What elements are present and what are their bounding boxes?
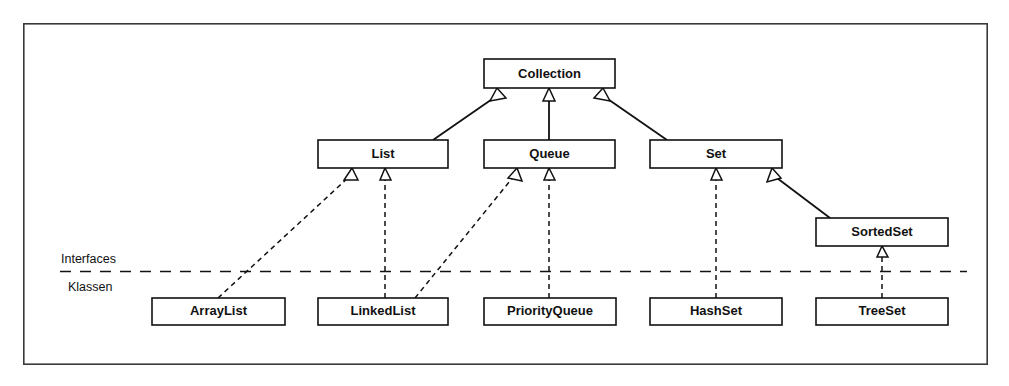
arrow-head-hashset-to-set — [711, 168, 722, 180]
uml-box-hashset[interactable]: HashSet — [650, 298, 782, 325]
uml-box-linkedlist[interactable]: LinkedList — [318, 298, 448, 325]
uml-box-label-hashset: HashSet — [690, 303, 743, 318]
uml-box-label-set: Set — [706, 146, 727, 161]
arrow-head-treeset-to-sortedset — [877, 246, 888, 257]
uml-class-diagram: Collection List Queue Set SortedSet Inte… — [0, 0, 1009, 386]
class-boxes: ArrayList LinkedList PriorityQueue HashS… — [152, 298, 948, 325]
uml-box-collection[interactable]: Collection — [484, 59, 615, 88]
edge-linkedlist-to-queue — [415, 176, 514, 298]
uml-box-label-treeset: TreeSet — [859, 303, 907, 318]
uml-box-label-linkedlist: LinkedList — [350, 303, 416, 318]
arrow-head-arraylist-to-list — [344, 168, 358, 180]
edge-sortedset-to-set — [773, 175, 830, 218]
uml-box-sortedset[interactable]: SortedSet — [816, 218, 948, 246]
uml-box-label-list: List — [371, 146, 395, 161]
layer-separator-group: Interfaces Klassen — [60, 252, 967, 294]
uml-box-priorityqueue[interactable]: PriorityQueue — [484, 298, 616, 325]
arrow-head-linkedlist-to-queue — [508, 168, 522, 181]
arrow-head-linkedlist-to-list — [380, 168, 391, 180]
diagram-canvas: Collection List Queue Set SortedSet Inte… — [0, 0, 1009, 386]
realization-edges — [218, 176, 882, 298]
arrow-head-set-to-collection — [594, 88, 610, 101]
arrow-head-priorityqueue-to-queue — [544, 168, 555, 180]
uml-box-label-arraylist: ArrayList — [190, 303, 248, 318]
uml-box-label-queue: Queue — [529, 146, 569, 161]
edge-arraylist-to-list — [218, 176, 350, 298]
edge-list-to-collection — [433, 95, 498, 140]
uml-box-queue[interactable]: Queue — [484, 140, 615, 168]
uml-box-label-sortedset: SortedSet — [851, 224, 913, 239]
interface-boxes: Collection List Queue Set SortedSet — [318, 59, 948, 246]
uml-box-label-collection: Collection — [518, 66, 581, 81]
layer-label-klassen: Klassen — [68, 280, 113, 294]
layer-label-interfaces: Interfaces — [61, 252, 116, 266]
arrow-head-list-to-collection — [490, 88, 506, 101]
uml-box-treeset[interactable]: TreeSet — [816, 298, 948, 325]
uml-box-list[interactable]: List — [318, 140, 448, 168]
uml-box-set[interactable]: Set — [650, 140, 782, 168]
arrow-heads — [344, 88, 888, 257]
edge-set-to-collection — [602, 95, 667, 140]
arrow-head-queue-to-collection — [543, 88, 555, 101]
uml-box-label-priorityqueue: PriorityQueue — [507, 303, 593, 318]
uml-box-arraylist[interactable]: ArrayList — [152, 298, 285, 325]
